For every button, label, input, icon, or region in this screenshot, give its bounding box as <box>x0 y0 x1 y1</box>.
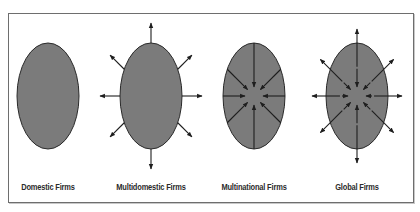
label-global-firms: Global Firms <box>313 182 401 192</box>
global-firms-ellipse <box>312 29 402 163</box>
label-multinational-firms: Multinational Firms <box>210 182 298 192</box>
outward-arrow-icon <box>110 123 124 137</box>
outward-arrow-icon <box>178 55 192 69</box>
ellipse-shape <box>17 43 79 149</box>
multinational-firms-ellipse <box>223 43 285 149</box>
multidomestic-firms-ellipse <box>100 23 202 169</box>
label-multidomestic-firms: Multidomestic Firms <box>107 182 195 192</box>
outward-arrow-icon <box>110 55 124 69</box>
label-domestic-firms: Domestic Firms <box>4 182 92 192</box>
outward-arrow-icon <box>178 123 192 137</box>
firm-types-diagram <box>0 0 420 212</box>
domestic-firms-ellipse <box>17 43 79 149</box>
ellipse-shape <box>120 43 182 149</box>
